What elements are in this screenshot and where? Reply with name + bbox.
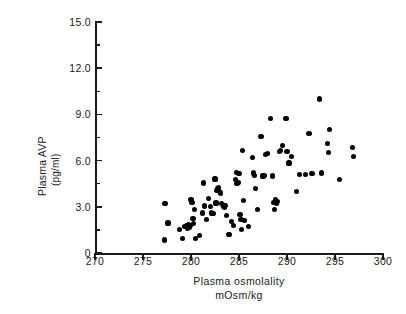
x-tick-label: 285 [230,255,248,267]
data-point [261,173,266,178]
x-tick-label: 280 [182,255,200,267]
scatter-chart-figure: Plasma AVP (pg/ml) 03.06.09.012.015.0 27… [0,0,406,314]
data-point [272,207,277,212]
y-tick-label: 15.0 [57,16,91,28]
y-tick-major [95,21,102,23]
data-point [284,149,289,154]
data-point [227,232,232,237]
data-point [241,198,246,203]
data-point [337,177,342,182]
data-point [283,116,288,121]
data-point [327,127,332,132]
data-point [192,207,197,212]
data-point [246,224,251,229]
data-point [240,148,245,153]
data-point [223,203,228,208]
data-point [239,227,244,232]
x-axis-title: Plasma osmolality [95,274,383,288]
data-point [309,171,314,176]
data-point [319,170,324,175]
data-point [218,190,223,195]
data-point [206,196,211,201]
y-tick-major [95,160,102,162]
x-tick-label: 290 [278,255,296,267]
y-tick-major [95,206,102,208]
data-point [250,155,255,160]
y-axis-title: Plasma AVP [36,136,48,196]
data-point [235,180,240,185]
data-point [265,151,270,156]
x-axis-units: mOsm/kg [95,288,383,302]
data-point [162,201,167,206]
y-axis-title-group: Plasma AVP (pg/ml) [0,0,58,260]
data-point [180,236,185,241]
y-tick-minor [95,137,100,138]
data-point [253,186,258,191]
data-point [189,200,194,205]
data-point [201,180,206,185]
data-point [270,173,275,178]
x-tick-label: 300 [374,255,392,267]
y-tick-label: 12.0 [57,62,91,74]
data-point [252,173,257,178]
y-tick-minor [95,91,100,92]
y-tick-label: 3.0 [57,201,91,213]
data-point [258,134,263,139]
x-tick-label: 275 [134,255,152,267]
data-point [165,220,170,225]
x-axis-title-group: Plasma osmolality mOsm/kg [95,274,383,302]
x-axis-tick-labels: 270275280285290295300 [0,255,406,271]
data-point [202,203,207,208]
data-point [191,221,196,226]
data-point [294,189,299,194]
data-point [224,213,229,218]
plot-area [95,22,383,253]
data-point [280,143,285,148]
data-point [200,210,205,215]
data-point [231,223,236,228]
data-point [326,150,331,155]
y-tick-major [95,67,102,69]
y-tick-label: 9.0 [57,108,91,120]
data-point [208,204,213,209]
x-tick-label: 270 [86,255,104,267]
data-point [268,116,273,121]
y-tick-minor [95,183,100,184]
data-point [303,172,308,177]
data-point [289,154,294,159]
data-point [255,207,260,212]
data-point [197,233,202,238]
y-tick-minor [95,229,100,230]
data-point [297,172,302,177]
data-point [162,237,167,242]
data-point [317,96,322,101]
data-point [278,148,283,153]
data-point [325,141,330,146]
data-point [350,145,355,150]
y-tick-minor [95,44,100,45]
data-point [213,200,218,205]
data-point [212,176,217,181]
data-point [275,199,280,204]
data-point [242,218,247,223]
data-point [210,211,215,216]
y-tick-label: 6.0 [57,155,91,167]
x-tick-label: 295 [326,255,344,267]
data-point [204,217,209,222]
data-point [351,154,356,159]
data-point [306,131,311,136]
data-point [286,160,291,165]
data-point [236,171,241,176]
y-tick-major [95,114,102,116]
